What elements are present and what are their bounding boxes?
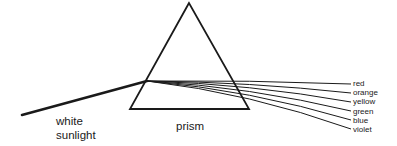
white-light-label: white sunlight bbox=[56, 114, 96, 142]
white-label-line1: white bbox=[56, 114, 96, 128]
prism-triangle bbox=[130, 3, 249, 109]
prism-label: prism bbox=[176, 119, 204, 133]
label-green: green bbox=[353, 107, 378, 116]
white-label-line2: sunlight bbox=[56, 128, 96, 142]
label-yellow: yellow bbox=[353, 97, 378, 106]
label-orange: orange bbox=[353, 88, 378, 97]
prism-diagram: white sunlight prism red orange yellow g… bbox=[0, 0, 397, 146]
label-violet: violet bbox=[353, 125, 378, 134]
label-blue: blue bbox=[353, 116, 378, 125]
label-red: red bbox=[353, 79, 378, 88]
ray-blue bbox=[147, 81, 351, 120]
white-light-ray bbox=[22, 81, 147, 115]
spectrum-labels: red orange yellow green blue violet bbox=[353, 79, 378, 134]
